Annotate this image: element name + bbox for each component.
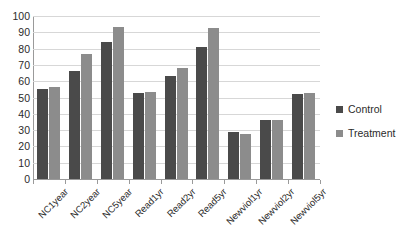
y-axis-tick-label: 20 [2,141,30,151]
bar-treatment [208,28,219,179]
bar-control [292,94,303,179]
bar-treatment [304,93,315,179]
bar-treatment [272,120,283,179]
bar-groups [33,16,320,179]
x-axis-label-cell: NC1year [33,184,65,239]
legend-label: Control [348,104,382,115]
x-axis-label-cell: NC2year [65,184,97,239]
bar-treatment [81,54,92,180]
bar-control [37,89,48,179]
bar-control [228,132,239,179]
bar-control [260,120,271,179]
bar-group [288,16,320,179]
y-axis-tick-label: 10 [2,158,30,168]
bar-control [165,76,176,179]
legend-item[interactable]: Control [336,104,412,115]
bar-treatment [49,87,60,179]
x-axis-baseline [33,179,320,180]
bar-group [256,16,288,179]
bar-treatment [113,27,124,179]
bar-control [101,42,112,179]
y-axis-tick-label: 30 [2,125,30,135]
x-axis-label: Newviol5yr [288,186,329,227]
bar-group [224,16,256,179]
bar-treatment [240,134,251,179]
bar-group [97,16,129,179]
bar-control [133,93,144,179]
y-axis-tick-label: 80 [2,44,30,54]
legend-item[interactable]: Treatment [336,128,412,139]
x-axis-label-cell: Newviol5yr [288,184,320,239]
plot-area [33,16,320,179]
bar-group [161,16,193,179]
x-axis-label-cell: NC5year [97,184,129,239]
y-axis-tick-label: 70 [2,60,30,70]
bar-group [33,16,65,179]
bar-group [129,16,161,179]
x-axis-tickmark [320,180,321,184]
legend-label: Treatment [348,128,395,139]
bar-chart: 1009080706050403020100 NC1yearNC2yearNC5… [0,0,412,239]
y-axis-tick-label: 60 [2,76,30,86]
y-axis-tick-label: 90 [2,27,30,37]
chart-legend: ControlTreatment [336,104,412,152]
x-axis-label-cell: Read5yr [192,184,224,239]
bar-group [192,16,224,179]
bar-treatment [177,68,188,179]
x-axis-label-cell: Read1yr [129,184,161,239]
bar-control [69,71,80,179]
y-axis-tick-label: 50 [2,93,30,103]
y-axis-tick-labels: 1009080706050403020100 [0,0,30,239]
y-axis-tick-label: 0 [2,174,30,184]
bar-treatment [145,92,156,179]
bar-group [65,16,97,179]
legend-swatch-icon [336,106,343,113]
legend-swatch-icon [336,130,343,137]
y-axis-tick-label: 40 [2,109,30,119]
x-axis-label-cell: Newviol1yr [224,184,256,239]
y-axis-tick-label: 100 [2,11,30,21]
x-axis-labels: NC1yearNC2yearNC5yearRead1yrRead2yrRead5… [33,184,320,239]
x-axis-label-cell: Read2yr [161,184,193,239]
bar-control [196,47,207,179]
x-axis-label-cell: Newviol2yr [256,184,288,239]
